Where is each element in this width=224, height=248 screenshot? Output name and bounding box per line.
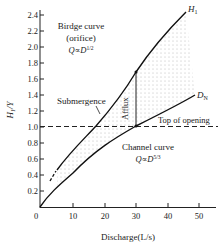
svg-text:H1/Y: H1/Y — [5, 101, 16, 120]
x-tick-20: 20 — [101, 211, 110, 221]
submergence-pointer — [96, 106, 100, 114]
bridge-formula: Q∝D1/2 — [68, 45, 93, 55]
h1-label: H1 — [187, 4, 198, 15]
top-of-opening-label: Top of opening — [158, 115, 211, 125]
y-tick-labels: 2.4 2.2 2.0 1.8 1.6 1.4 1.2 1.0 0.8 0.6 … — [27, 10, 38, 196]
afflux-bottom-marker — [135, 125, 138, 128]
x-axis-title: Discharge(L/s) — [101, 232, 155, 242]
y-tick-1.2: 1.2 — [27, 106, 38, 116]
h1-dashed-extension — [50, 171, 56, 181]
channel-formula: Q∝D5/3 — [135, 154, 160, 164]
x-tick-40: 40 — [164, 211, 173, 221]
afflux-top-marker — [135, 71, 138, 74]
x-tick-30: 30 — [132, 211, 141, 221]
y-tick-1.6: 1.6 — [27, 74, 38, 84]
y-tick-1.0: 1.0 — [27, 122, 38, 132]
discharge-chart: 2.4 2.2 2.0 1.8 1.6 1.4 1.2 1.0 0.8 0.6 … — [0, 0, 224, 248]
y-tick-0.8: 0.8 — [27, 138, 38, 148]
y-tick-1.8: 1.8 — [27, 58, 38, 68]
channel-curve-label: Channel curve — [122, 142, 174, 152]
y-tick-0.4: 0.4 — [27, 170, 38, 180]
y-ticks — [40, 15, 44, 191]
y-tick-2.4: 2.4 — [27, 10, 38, 20]
y-tick-0.6: 0.6 — [27, 154, 38, 164]
x-ticks — [73, 203, 199, 207]
y-tick-0.2: 0.2 — [27, 186, 38, 196]
bridge-orifice-label: (orifice) — [66, 33, 95, 43]
x-tick-50: 50 — [195, 211, 204, 221]
x-tick-labels: 0 10 20 30 40 50 — [34, 211, 203, 221]
afflux-label: Afflux — [120, 97, 130, 120]
origin-label: 0 — [34, 211, 38, 221]
dn-label: DN — [196, 90, 209, 101]
y-tick-1.4: 1.4 — [27, 90, 38, 100]
bridge-curve-label: Birdge curve — [58, 21, 105, 31]
y-tick-2.0: 2.0 — [27, 42, 38, 52]
y-axis-title: H1/Y — [5, 101, 16, 120]
submergence-label: Submergence — [57, 96, 106, 106]
x-tick-10: 10 — [69, 211, 78, 221]
y-tick-2.2: 2.2 — [27, 26, 38, 36]
